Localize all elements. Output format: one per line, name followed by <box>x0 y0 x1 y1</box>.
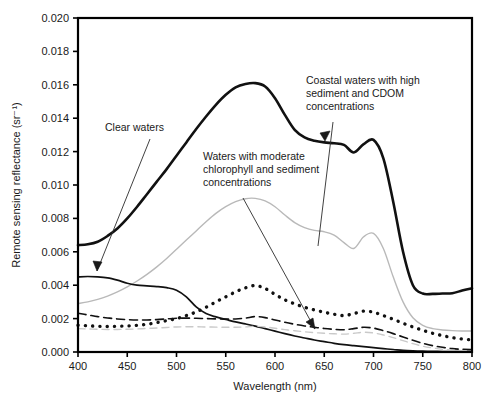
plot-background <box>78 18 472 352</box>
y-axis-ticks: 0.0200.0180.0160.0140.0120.0100.0080.006… <box>41 12 78 358</box>
y-axis-title: Remote sensing reflectance (sr⁻¹) <box>10 102 22 268</box>
y-tick-label: 0.008 <box>41 212 69 224</box>
x-tick-label: 600 <box>266 360 284 372</box>
x-tick-label: 500 <box>167 360 185 372</box>
y-tick-label: 0.000 <box>41 346 69 358</box>
y-tick-label: 0.018 <box>41 45 69 57</box>
x-tick-label: 750 <box>414 360 432 372</box>
figure-container: 0.0200.0180.0160.0140.0120.0100.0080.006… <box>0 0 500 407</box>
x-tick-label: 550 <box>217 360 235 372</box>
x-tick-label: 800 <box>463 360 481 372</box>
y-tick-label: 0.012 <box>41 146 69 158</box>
y-tick-label: 0.006 <box>41 246 69 258</box>
y-tick-label: 0.020 <box>41 12 69 24</box>
x-tick-label: 650 <box>315 360 333 372</box>
x-tick-label: 450 <box>118 360 136 372</box>
y-tick-label: 0.014 <box>41 112 69 124</box>
y-tick-label: 0.004 <box>41 279 69 291</box>
y-tick-label: 0.016 <box>41 79 69 91</box>
x-axis-title: Wavelength (nm) <box>233 380 316 392</box>
y-tick-label: 0.002 <box>41 313 69 325</box>
annotation-label: Clear waters <box>105 121 164 133</box>
y-tick-label: 0.010 <box>41 179 69 191</box>
x-tick-label: 700 <box>364 360 382 372</box>
x-tick-label: 400 <box>69 360 87 372</box>
reflectance-spectra-chart: 0.0200.0180.0160.0140.0120.0100.0080.006… <box>0 0 500 407</box>
x-axis-ticks: 400450500550600650700750800 <box>69 352 481 372</box>
